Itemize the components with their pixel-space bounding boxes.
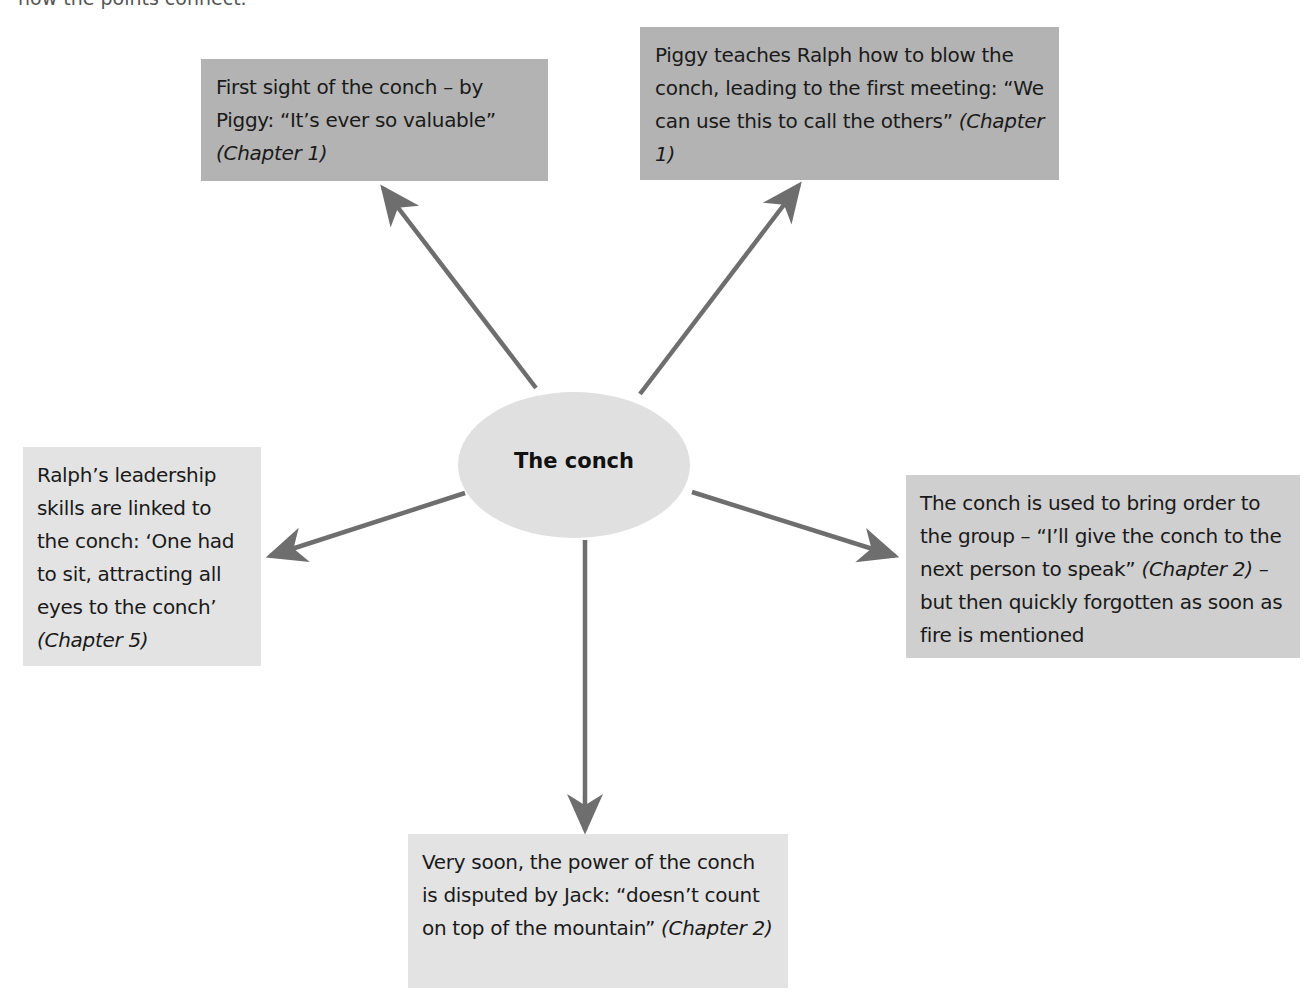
arrow-to-right bbox=[692, 492, 895, 556]
node-leadership: Ralph’s leadership skills are linked to … bbox=[23, 447, 261, 666]
center-node: The conch bbox=[458, 392, 690, 538]
node-text: First sight of the conch – by Piggy: “It… bbox=[216, 75, 496, 132]
chapter-citation: (Chapter 2) bbox=[1141, 557, 1252, 581]
arrow-to-top-right bbox=[640, 185, 799, 394]
node-text: Ralph’s leadership skills are linked to … bbox=[37, 463, 234, 619]
center-node-label: The conch bbox=[514, 449, 634, 473]
chapter-citation: (Chapter 5) bbox=[37, 628, 148, 652]
node-disputed: Very soon, the power of the conch is dis… bbox=[408, 834, 788, 988]
node-order: The conch is used to bring order to the … bbox=[906, 475, 1300, 658]
chapter-citation: (Chapter 1) bbox=[216, 141, 327, 165]
node-first-meeting: Piggy teaches Ralph how to blow the conc… bbox=[640, 27, 1059, 180]
arrow-to-left bbox=[270, 493, 465, 556]
arrow-to-top-left bbox=[383, 188, 536, 388]
node-first-sight: First sight of the conch – by Piggy: “It… bbox=[201, 59, 548, 181]
chapter-citation: (Chapter 2) bbox=[661, 916, 772, 940]
